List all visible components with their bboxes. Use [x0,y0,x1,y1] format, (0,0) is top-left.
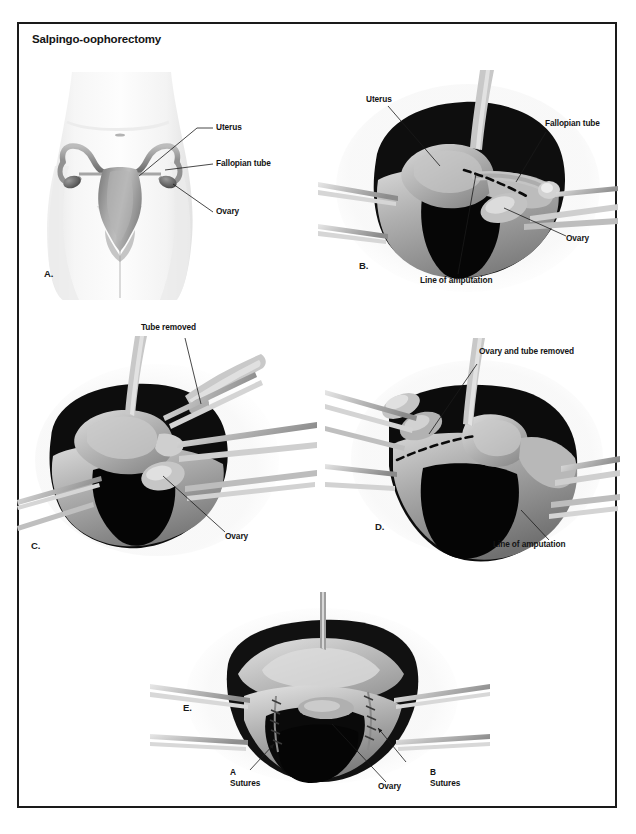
panel-d-label-ovary-and-tube-removed: Ovary and tube removed [479,346,574,357]
leader-ovary [163,476,225,532]
panel-a-leader-lines [17,70,317,300]
panel-e-label-ovary: Ovary [378,781,401,792]
panel-a-label-fallopian-tube: Fallopian tube [216,158,271,169]
panel-d-label-line-of-amputation: Line of amputation [493,539,565,550]
panel-b-letter: B. [359,260,369,271]
leader-ovary [504,208,566,236]
panel-e-label-suture-a-word: Sutures [230,778,260,789]
panel-c-label-ovary: Ovary [225,531,248,542]
panel-c-tube-removed: Tube removed Ovary C. [17,310,317,560]
panel-b-label-ovary: Ovary [566,233,589,244]
panel-b-label-line-of-amputation: Line of amputation [420,275,492,286]
panel-a-label-ovary: Ovary [216,206,239,217]
leader-tube-removed [185,338,201,404]
leader-line-of-amputation [458,174,476,274]
leader-fallopian-tube [516,132,546,182]
leader-uterus [388,106,440,166]
panel-d-ovary-and-tube-removed: Ovary and tube removed Line of amputatio… [325,338,620,573]
panel-d-letter: D. [375,521,385,532]
leader-suture-a [250,744,274,770]
panel-a-anatomy-overview: Uterus Fallopian tube Ovary A. [17,70,317,300]
panel-e-sutures: A Sutures Ovary B Sutures E. [150,592,490,792]
leader-fallopian-tube [165,164,213,170]
illustration-page: Salpingo-oophorectomy [0,0,636,834]
panel-e-label-suture-a-letter: A [230,767,236,778]
leader-ovary-tube-removed [429,364,477,434]
panel-e-label-suture-b-letter: B [430,767,436,778]
panel-c-label-tube-removed: Tube removed [141,322,196,333]
panel-b-label-uterus: Uterus [366,94,392,105]
leader-line-of-amputation [521,510,549,540]
leader-ovary [173,184,213,212]
leader-uterus [139,128,197,176]
panel-e-leader-lines [150,592,490,792]
leader-suture-b [378,728,406,762]
panel-d-leader-lines [325,338,620,573]
page-title: Salpingo-oophorectomy [32,33,161,45]
panel-c-leader-lines [17,310,317,560]
panel-b-exposed-field: Uterus Fallopian tube Ovary Line of ampu… [318,70,618,300]
panel-e-label-suture-b-word: Sutures [430,778,460,789]
panel-b-label-fallopian-tube: Fallopian tube [545,118,600,129]
panel-c-letter: C. [31,540,41,551]
panel-a-label-uterus: Uterus [216,122,242,133]
leader-ovary [332,724,386,782]
panel-a-letter: A. [44,268,54,279]
panel-e-letter: E. [183,702,192,713]
